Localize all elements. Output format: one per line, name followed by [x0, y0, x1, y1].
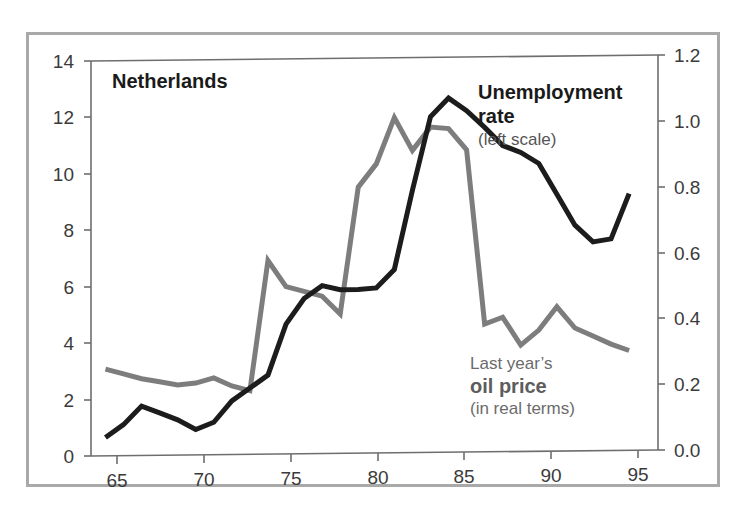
- right-tick-label-0p8: 0.8: [674, 177, 700, 198]
- right-tick-label-0p6: 0.6: [674, 243, 700, 264]
- x-tick-label-95: 95: [627, 464, 648, 485]
- left-tick-label-0: 0: [63, 446, 74, 467]
- x-tick-label-75: 75: [280, 468, 301, 489]
- x-tick-label-70: 70: [193, 469, 214, 490]
- bottom-axis-line: [91, 450, 658, 456]
- right-tick-label-0p4: 0.4: [674, 308, 701, 329]
- unemployment-label-line3: (left scale): [478, 130, 556, 149]
- panel-title: Netherlands: [112, 70, 228, 92]
- axis-frame: [91, 55, 658, 456]
- left-tick-label-8: 8: [63, 220, 74, 241]
- left-tick-label-14: 14: [53, 51, 75, 72]
- x-tick-label-90: 90: [540, 465, 561, 486]
- right-tick-label-1p2: 1.2: [674, 45, 700, 66]
- right-tick-label-0p2: 0.2: [674, 374, 700, 395]
- x-tick-label-80: 80: [367, 467, 388, 488]
- unemployment-label-line2: rate: [478, 105, 515, 127]
- left-axis-labels: 14 12 10 8 6 4 2 0: [53, 51, 75, 467]
- right-tick-label-0p0: 0.0: [674, 440, 700, 461]
- unemployment-label-line1: Unemployment: [478, 81, 623, 103]
- chart-canvas: 14 12 10 8 6 4 2 0 1.2 1.0 0.8 0.6 0.4 0…: [0, 0, 746, 516]
- x-axis-labels: 65 70 75 80 85 90 95: [106, 464, 648, 491]
- screenshot-root: 14 12 10 8 6 4 2 0 1.2 1.0 0.8 0.6 0.4 0…: [0, 0, 746, 516]
- left-tick-label-4: 4: [63, 333, 74, 354]
- right-axis-labels: 1.2 1.0 0.8 0.6 0.4 0.2 0.0: [674, 45, 701, 461]
- left-axis-ticks: [84, 61, 91, 456]
- right-tick-label-1p0: 1.0: [674, 111, 700, 132]
- oil-price-label-line1: Last year’s: [470, 354, 553, 373]
- oil-price-label-line2: oil price: [470, 375, 547, 397]
- top-rule: [91, 55, 658, 61]
- x-tick-label-85: 85: [453, 466, 474, 487]
- x-tick-label-65: 65: [106, 470, 127, 491]
- left-tick-label-12: 12: [53, 107, 74, 128]
- oil-price-label-line3: (in real terms): [470, 399, 575, 418]
- right-axis-ticks: [658, 55, 665, 450]
- oil-price-annotation: Last year’s oil price (in real terms): [470, 354, 575, 418]
- unemployment-rate-annotation: Unemployment rate (left scale): [478, 81, 623, 149]
- left-tick-label-10: 10: [53, 164, 74, 185]
- series-line-oil-price: [105, 118, 629, 391]
- left-tick-label-6: 6: [63, 277, 74, 298]
- left-tick-label-2: 2: [63, 390, 74, 411]
- x-axis-ticks: [117, 450, 638, 464]
